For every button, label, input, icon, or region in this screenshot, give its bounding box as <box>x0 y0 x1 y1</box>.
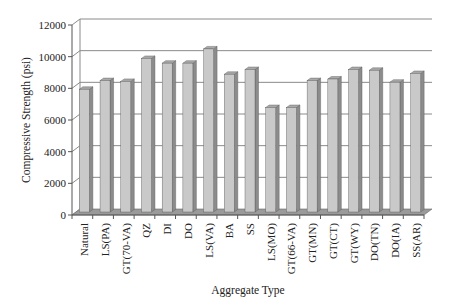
y-tick-label: 0 <box>61 209 67 221</box>
y-tick-label: 8000 <box>44 82 67 94</box>
bar <box>307 78 321 212</box>
x-tick-label: SS <box>244 223 256 235</box>
y-tick-label: 10000 <box>39 51 67 63</box>
x-axis-title-text: Aggregate Type <box>211 284 284 297</box>
bar <box>100 78 114 212</box>
x-tick-label: LS(PA) <box>99 223 112 257</box>
bar <box>141 56 155 212</box>
x-tick-label: GT(WY) <box>348 223 361 264</box>
bar <box>390 80 404 212</box>
gridline-depth <box>72 146 80 152</box>
bar-chart-plot: 020004000600080001000012000NaturalLS(PA)… <box>0 0 453 308</box>
y-tick-label: 2000 <box>44 177 67 189</box>
x-tick-label: DI <box>161 223 173 235</box>
bar <box>79 87 93 212</box>
y-axis-title-text: Compressive Strength (psi) <box>20 57 33 183</box>
gridline-depth <box>72 177 80 183</box>
bar <box>328 77 342 213</box>
x-tick-label: LS(VA) <box>203 223 216 258</box>
x-tick-label: GT(70-VA) <box>120 223 133 274</box>
y-tick-label: 4000 <box>44 146 67 158</box>
x-tick-label: LS(MO) <box>265 223 278 261</box>
bar <box>245 67 259 212</box>
x-tick-label: BA <box>223 223 235 238</box>
bar <box>266 105 280 212</box>
y-tick-label: 6000 <box>44 114 67 126</box>
bar <box>224 72 238 212</box>
bar <box>162 61 176 212</box>
x-tick-label: DO(IA) <box>389 223 402 258</box>
gridline-depth <box>72 51 80 57</box>
x-tick-label: DO(TN) <box>368 223 381 261</box>
chart: 020004000600080001000012000NaturalLS(PA)… <box>0 0 453 308</box>
bar <box>349 67 363 212</box>
x-tick-label: SS(AR) <box>410 223 423 258</box>
x-tick-label: Natural <box>78 223 90 256</box>
bar <box>286 105 300 212</box>
bar <box>183 61 197 212</box>
gridline-depth <box>72 114 80 120</box>
x-tick-label: GT(CT) <box>327 223 340 259</box>
x-tick-label: GT(MN) <box>306 223 319 263</box>
gridline-depth <box>72 19 80 25</box>
bar <box>411 71 425 212</box>
gridline-depth <box>72 82 80 88</box>
y-tick-label: 12000 <box>39 19 67 31</box>
bar <box>121 79 135 212</box>
x-tick-label: QZ <box>140 223 152 238</box>
bar <box>204 46 218 212</box>
x-tick-label: DO <box>182 223 194 239</box>
x-tick-label: GT(66-VA) <box>285 223 298 274</box>
bar <box>369 68 383 212</box>
